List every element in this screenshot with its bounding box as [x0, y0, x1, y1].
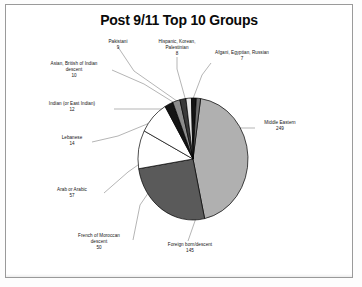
pie-chart-figure: Post 9/11 Top 10 Groups: [6, 5, 352, 277]
label-arab-or-arabic-value: 57: [40, 193, 104, 199]
pie-svg: [135, 97, 251, 221]
pie-slice: [139, 159, 205, 220]
label-hispanic-korean-palestinian: Hispanic, Korean, Palestinian 8: [146, 39, 208, 58]
label-lebanese: Lebanese 14: [50, 135, 94, 147]
label-middle-eastern: Middle Eastern 249: [254, 120, 306, 132]
label-indian-east-indian-value: 12: [30, 107, 114, 113]
label-pakistani-value: 9: [90, 45, 146, 51]
label-afgani-egyptian-russian-value: 7: [200, 56, 284, 62]
label-foreign-born-value: 145: [154, 248, 226, 254]
label-french-moroccan-descent: French of Moroccan descent 50: [64, 233, 134, 252]
label-foreign-born-descent: Foreign born/descent 145: [154, 242, 226, 254]
chart-title: Post 9/11 Top 10 Groups: [6, 12, 352, 28]
label-middle-eastern-value: 249: [254, 126, 306, 132]
label-asian-british-value: 10: [34, 73, 114, 79]
screenshot-page: Post 9/11 Top 10 Groups: [0, 0, 362, 287]
label-pakistani: Pakistani 9: [90, 39, 146, 51]
pie-graphic: [135, 97, 251, 221]
label-arab-or-arabic: Arab or Arabic 57: [40, 187, 104, 199]
label-indian-east-indian: Indian (or East Indian) 12: [30, 101, 114, 113]
pie-slices: [138, 98, 248, 220]
label-hispanic-korean-palestinian-value: 8: [146, 51, 208, 57]
scan-edge-shadow: [6, 274, 352, 277]
scanned-sheet: Post 9/11 Top 10 Groups: [5, 4, 353, 278]
label-french-moroccan-value: 50: [64, 245, 134, 251]
label-afgani-egyptian-russian: Afgani, Egyptian, Russian 7: [200, 50, 284, 62]
label-lebanese-value: 14: [50, 141, 94, 147]
label-asian-british-indian-descent: Asian, British of Indian descent 10: [34, 61, 114, 80]
